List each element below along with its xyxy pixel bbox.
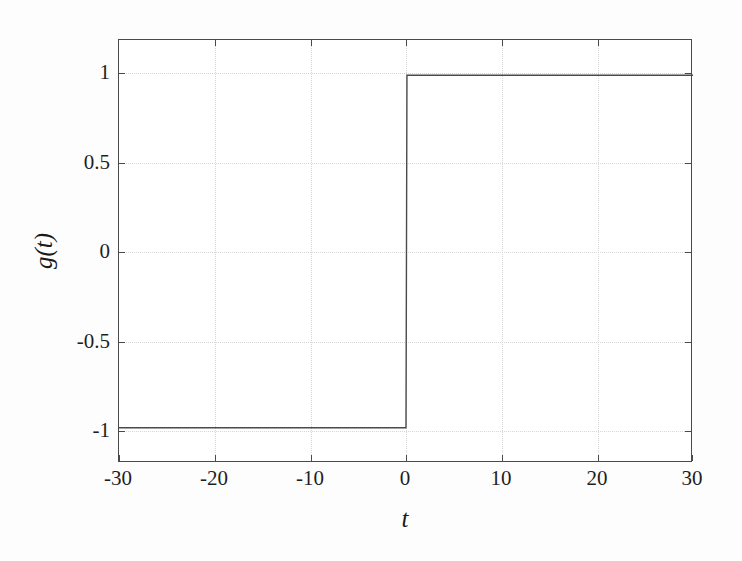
y-tick-label: -1 [93, 420, 111, 441]
series-polyline [119, 75, 693, 428]
x-tick-label: 0 [400, 468, 411, 489]
figure-canvas: g(t) t 1 0.5 0 -0.5 -1 -30 -20 -10 0 10 … [0, 0, 742, 561]
data-series-line [119, 40, 693, 463]
x-tick-label: 20 [587, 468, 608, 489]
x-tick-label: -20 [200, 468, 228, 489]
y-tick-label: -0.5 [77, 331, 110, 352]
plot-area [118, 39, 692, 462]
y-tick-label: 0.5 [84, 152, 110, 173]
x-tick-label: -30 [104, 468, 132, 489]
x-tick-label: 30 [682, 468, 703, 489]
y-tick-label: 1 [100, 62, 111, 83]
x-tick-label: 10 [491, 468, 512, 489]
x-tick-label: -10 [296, 468, 324, 489]
y-tick-label: 0 [100, 241, 111, 262]
